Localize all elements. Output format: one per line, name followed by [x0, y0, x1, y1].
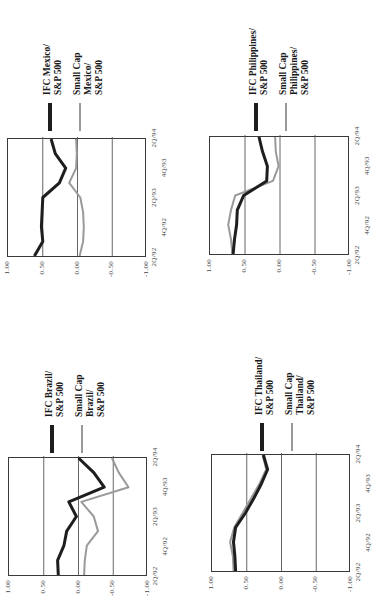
legend-item-smallcap-philippines: Small Cap Philippines/ S&P 500 — [278, 47, 311, 131]
x-tick-label: 2Q/93 — [353, 186, 361, 205]
legend-swatch-ifc — [254, 103, 258, 131]
y-tick-label: -0.50 — [310, 259, 318, 285]
rotated-page: 1.000.500.00-0.50-1.00 2Q/922Q/932Q/944Q… — [0, 0, 389, 601]
legend-label-ifc-philippines: IFC Philippines/ S&P 500 — [248, 28, 270, 95]
legend-swatch-smallcap — [285, 103, 287, 131]
panel-philippines: 1.000.500.00-0.50-1.00 2Q/922Q/932Q/944Q… — [0, 0, 389, 601]
x-tick-label: 2Q/92 — [353, 246, 361, 265]
y-tick-label: 0.00 — [275, 259, 283, 285]
series-line-ifc — [233, 137, 267, 254]
chart-frame-philippines — [209, 136, 349, 255]
y-tick-label: 1.00 — [205, 259, 213, 285]
y-tick-label: 0.50 — [240, 259, 248, 285]
x-tick-label: 4Q/92 — [363, 216, 371, 235]
legend-item-ifc-philippines: IFC Philippines/ S&P 500 — [248, 28, 270, 131]
chart-plot-philippines — [210, 135, 350, 254]
x-tick-label: 2Q/94 — [353, 127, 361, 146]
x-tick-label: 4Q/93 — [363, 156, 371, 175]
y-tick-label: -1.00 — [345, 259, 353, 285]
legend-label-smallcap-philippines: Small Cap Philippines/ S&P 500 — [278, 47, 311, 95]
